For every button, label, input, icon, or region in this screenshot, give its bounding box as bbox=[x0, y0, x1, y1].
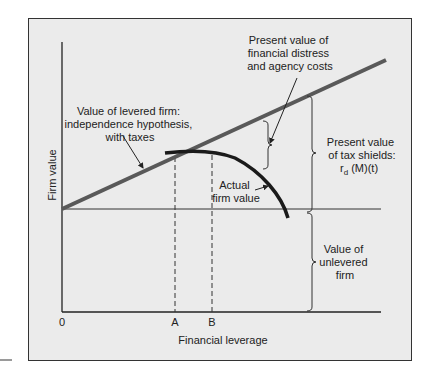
distress-costs-label: Present value of financial distress and … bbox=[247, 34, 333, 72]
tax-shields-label: Present value of tax shields: bbox=[327, 136, 397, 161]
tax-shields-formula: rd (M)(t) bbox=[340, 162, 378, 177]
actual-value-pointer-arrow bbox=[255, 186, 268, 190]
levered-line-label: Value of levered firm: independence hypo… bbox=[65, 105, 196, 143]
tax-shields-brace bbox=[307, 96, 316, 212]
distress-costs-brace bbox=[263, 121, 272, 169]
x-axis-label: Financial leverage bbox=[178, 334, 267, 346]
tick-a-label: A bbox=[171, 316, 179, 328]
unlevered-value-label: Value of unlevered firm bbox=[319, 243, 370, 281]
origin-label: 0 bbox=[59, 316, 65, 328]
unlevered-value-brace bbox=[307, 213, 316, 311]
capital-structure-diagram: Value of levered firm: independence hypo… bbox=[0, 0, 429, 379]
y-axis-label: Firm value bbox=[46, 149, 58, 200]
tick-b-label: B bbox=[208, 316, 215, 328]
actual-value-label: Actual firm value bbox=[212, 179, 260, 204]
